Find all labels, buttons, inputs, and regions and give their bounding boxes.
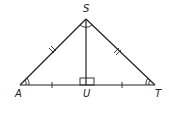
- label-S: S: [83, 3, 90, 14]
- label-A: A: [14, 88, 22, 99]
- angle-arc-A-inner: [25, 80, 26, 85]
- angle-arc-T-inner: [149, 80, 150, 85]
- angle-arc-A-outer: [27, 78, 29, 85]
- angle-arc-T-outer: [146, 78, 148, 85]
- side-ST: [86, 19, 155, 85]
- triangle-diagram: S A U T: [0, 0, 169, 114]
- label-U: U: [83, 88, 91, 99]
- label-T: T: [155, 88, 162, 99]
- right-angle-mark: [80, 78, 94, 85]
- double-tick-SA: [49, 46, 56, 53]
- double-tick-ST: [114, 48, 121, 55]
